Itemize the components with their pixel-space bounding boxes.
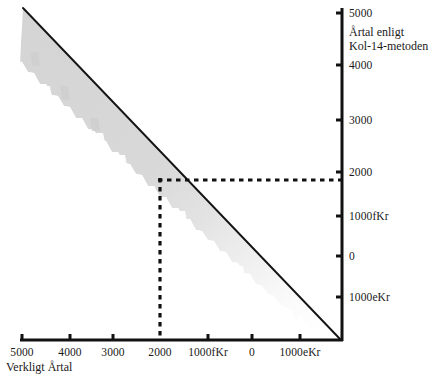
x-axis-title: Verkligt Årtal [6,361,72,375]
y-tick-label-5000: 5000 [349,7,372,19]
radiocarbon-calibration-figure: 5000 4000 3000 2000 1000fKr 0 1000eKr År… [0,0,431,378]
x-tick-label-4000: 4000 [58,346,81,358]
y-tick-label-3000: 3000 [349,114,372,126]
x-tick-label-1000fkr: 1000fKr [188,346,228,358]
y-tick-label-2000: 2000 [349,166,372,178]
x-tick-label-1000ekr: 1000eKr [280,346,321,358]
y-axis-title-line1: Årtal enligt [349,26,404,40]
y-tick-label-1000ekr: 1000eKr [349,291,390,303]
plot-area [0,0,431,378]
y-tick-label-0: 0 [349,250,355,262]
y-tick-label-4000: 4000 [349,59,372,71]
x-tick-label-5000: 5000 [10,346,33,358]
y-axis-title-line2: Kol-14-metoden [349,40,428,54]
x-tick-label-2000: 2000 [148,346,171,358]
y-tick-label-1000fkr: 1000fKr [349,210,389,222]
x-tick-label-3000: 3000 [101,346,124,358]
uncertainty-band [5,8,340,339]
x-tick-label-0: 0 [249,346,255,358]
